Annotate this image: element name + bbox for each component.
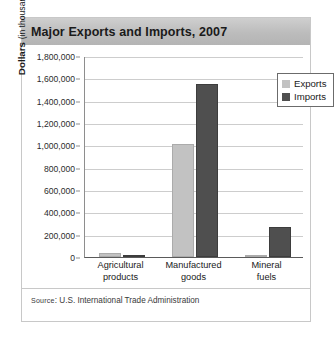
y-tick-label: 1,400,000 xyxy=(37,97,75,107)
y-tick-mark xyxy=(76,57,80,58)
y-tick-mark xyxy=(76,101,80,102)
legend-item-exports: Exports xyxy=(282,77,327,90)
y-tick-mark xyxy=(76,79,80,80)
y-tick-label: 1,000,000 xyxy=(37,141,75,151)
source-text: : U.S. International Trade Administratio… xyxy=(55,296,200,305)
y-tick-label: 600,000 xyxy=(44,186,75,196)
x-axis-label: Mineral fuels xyxy=(230,260,303,283)
figure-title: Major Exports and Imports, 2007 xyxy=(22,25,227,39)
y-tick-label: 1,800,000 xyxy=(37,52,75,62)
y-tick-mark xyxy=(76,124,80,125)
y-tick-label: 1,200,000 xyxy=(37,119,75,129)
legend-swatch-imports-icon xyxy=(282,93,290,101)
y-tick-mark xyxy=(76,258,80,259)
y-tick-label: 800,000 xyxy=(44,164,75,174)
figure-card: Major Exports and Imports, 2007 Dollars … xyxy=(21,17,311,322)
bar-imports-0 xyxy=(123,255,145,257)
figure-title-bar: Major Exports and Imports, 2007 xyxy=(22,18,310,45)
legend-item-imports: Imports xyxy=(282,90,327,103)
legend-label-imports: Imports xyxy=(294,91,326,102)
y-tick-mark xyxy=(76,213,80,214)
y-axis-title-regular: (in thousands) xyxy=(17,0,27,39)
y-tick-label: 400,000 xyxy=(44,208,75,218)
chart-legend: Exports Imports xyxy=(277,73,334,107)
bar-exports-2 xyxy=(245,255,267,257)
source-note: Source: U.S. International Trade Adminis… xyxy=(31,296,199,305)
legend-label-exports: Exports xyxy=(294,78,327,89)
x-axis-label: Agricultural products xyxy=(84,260,157,283)
y-tick-label: 200,000 xyxy=(44,231,75,241)
chart-area: Dollars (in thousands) 1,800,0001,600,00… xyxy=(22,45,310,288)
bar-exports-1 xyxy=(172,144,194,257)
y-tick-label: 0 xyxy=(70,253,75,263)
y-axis-ticks: 1,800,0001,600,0001,400,0001,200,0001,00… xyxy=(22,57,80,258)
y-tick-mark xyxy=(76,168,80,169)
bar-imports-2 xyxy=(269,227,291,257)
y-tick-mark xyxy=(76,235,80,236)
source-prefix: Source xyxy=(31,297,55,305)
bar-imports-1 xyxy=(196,84,218,257)
legend-swatch-exports-icon xyxy=(282,80,290,88)
x-axis-label: Manufactured goods xyxy=(157,260,230,283)
x-axis-labels: Agricultural productsManufactured goodsM… xyxy=(84,260,303,290)
bar-exports-0 xyxy=(99,253,121,257)
y-tick-mark xyxy=(76,191,80,192)
source-divider xyxy=(22,288,310,289)
y-tick-label: 1,600,000 xyxy=(37,74,75,84)
plot-area: Exports Imports xyxy=(84,57,303,258)
y-tick-mark xyxy=(76,146,80,147)
bar-series-container xyxy=(85,57,303,257)
